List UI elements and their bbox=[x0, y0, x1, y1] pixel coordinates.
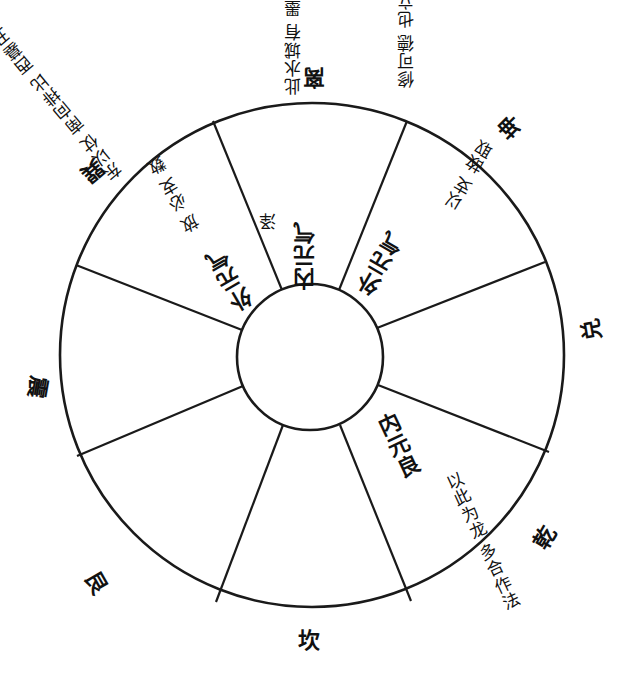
spoke-bottom-left bbox=[216, 425, 283, 602]
spoke-left-lower bbox=[77, 386, 243, 456]
trigram-dui: 兑 bbox=[579, 317, 604, 342]
spoke-right-upper bbox=[377, 262, 545, 328]
note-li-left: 此水城有 墨则门以 东合收放 bbox=[284, 0, 305, 95]
inner-circle bbox=[237, 284, 383, 430]
sector-top-center-head: 内元气 bbox=[296, 221, 318, 290]
note-li-right-col2: 也立仗 bbox=[397, 0, 417, 28]
note-li-left-col1: 此水城有 bbox=[284, 23, 304, 95]
sector-top-center-note: 泽 bbox=[259, 212, 280, 230]
trigram-zhen: 震 bbox=[25, 374, 50, 399]
trigram-li: 离 bbox=[303, 66, 325, 88]
trigram-kan: 坎 bbox=[298, 630, 320, 652]
note-li-right: 修可德 也立仗 西久 bbox=[397, 0, 418, 88]
note-li-left-col2: 墨则门以 bbox=[284, 0, 304, 17]
trigram-wheel-diagram: 离 坤 兑 乾 坎 艮 震 巽 此水城有 墨则门以 东合收放 修可德 也立仗 西… bbox=[0, 0, 620, 680]
note-li-right-col1: 修可德 bbox=[397, 34, 417, 88]
